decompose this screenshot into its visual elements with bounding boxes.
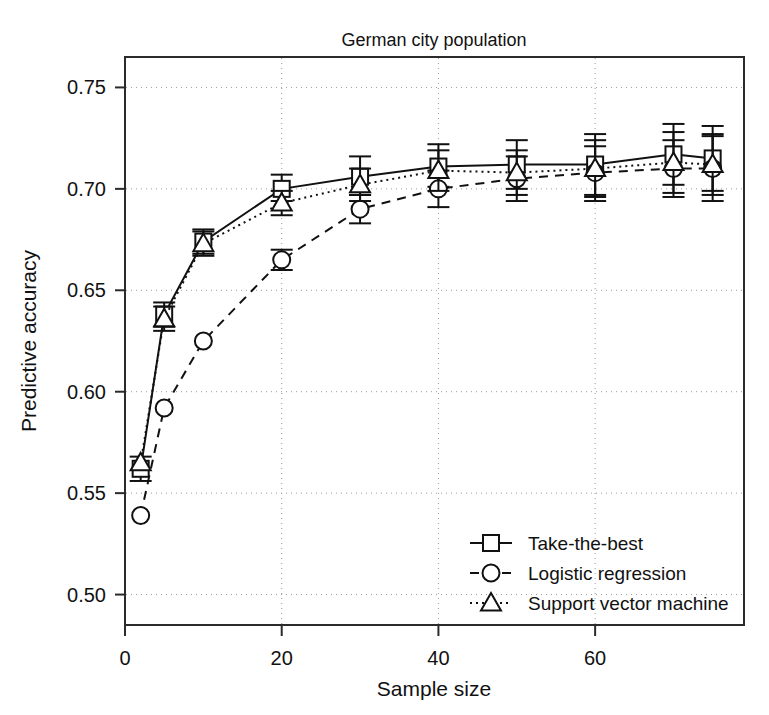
y-tick-label: 0.50	[67, 584, 106, 606]
legend-label: Logistic regression	[528, 563, 686, 584]
series-line	[141, 169, 713, 516]
gridlines	[125, 58, 743, 624]
error-bars	[130, 124, 724, 481]
legend-label: Take-the-best	[528, 533, 644, 554]
y-tick-label: 0.65	[67, 279, 106, 301]
series-markers	[131, 152, 723, 470]
data-point-circle	[132, 507, 149, 524]
y-tick-label: 0.75	[67, 76, 106, 98]
legend-label: Support vector machine	[528, 593, 729, 614]
chart-title: German city population	[341, 30, 526, 50]
legend-entry[interactable]: Take-the-best	[470, 533, 644, 554]
chart-legend: Take-the-bestLogistic regressionSupport …	[470, 533, 729, 614]
x-tick-labels: 0204060	[119, 647, 606, 669]
data-series	[132, 136, 723, 524]
legend-marker-square	[483, 535, 499, 551]
data-point-circle	[156, 399, 173, 416]
chart-figure: German city population 0.500.550.600.650…	[0, 0, 769, 715]
x-tick-label: 60	[584, 647, 606, 669]
data-series	[130, 124, 724, 481]
data-series	[131, 132, 724, 470]
y-tick-labels: 0.500.550.600.650.700.75	[67, 76, 106, 605]
series-line	[141, 154, 713, 468]
line-chart-svg: German city population 0.500.550.600.650…	[0, 0, 769, 715]
data-point-circle	[273, 251, 290, 268]
y-tick-label: 0.55	[67, 482, 106, 504]
series-markers	[132, 160, 721, 524]
x-tick-label: 0	[119, 647, 130, 669]
legend-entry[interactable]: Logistic regression	[470, 563, 686, 584]
y-axis-label: Predictive accuracy	[17, 249, 40, 432]
x-tick-label: 20	[271, 647, 293, 669]
x-axis-label: Sample size	[377, 677, 491, 700]
y-tick-label: 0.60	[67, 381, 106, 403]
data-point-circle	[195, 333, 212, 350]
plot-frame	[125, 57, 744, 625]
data-series-layer	[130, 124, 724, 524]
y-tick-label: 0.70	[67, 178, 106, 200]
legend-marker-triangle	[481, 593, 501, 611]
data-point-circle	[352, 201, 369, 218]
x-tick-label: 40	[427, 647, 449, 669]
legend-entry[interactable]: Support vector machine	[470, 593, 729, 614]
series-line	[141, 162, 713, 462]
legend-marker-circle	[483, 565, 500, 582]
series-markers	[133, 146, 721, 476]
